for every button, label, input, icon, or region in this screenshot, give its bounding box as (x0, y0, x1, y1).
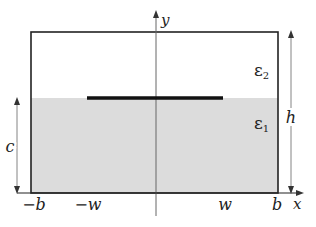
y-axis-label: y (160, 11, 170, 29)
substrate-region (31, 98, 278, 193)
tick-neg-w: −w (74, 195, 101, 214)
tick-neg-b: −b (22, 195, 46, 214)
x-axis-label: x (293, 195, 302, 213)
h-label: h (286, 108, 296, 127)
tick-b: b (272, 195, 282, 214)
microstrip-diagram: y x ε2 ε1 c h −b −w w b (0, 0, 316, 227)
c-label: c (6, 137, 15, 156)
epsilon-2-label: ε2 (254, 60, 269, 81)
tick-w: w (218, 195, 232, 214)
